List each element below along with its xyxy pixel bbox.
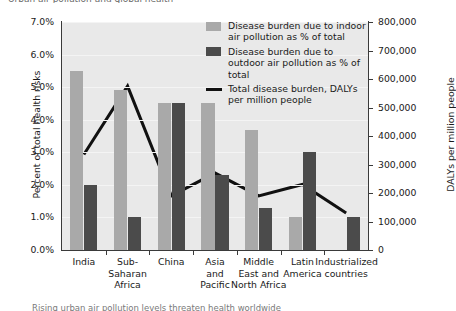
bar-outdoor xyxy=(215,175,228,250)
x-axis-label-line: Saharan xyxy=(97,268,159,280)
right-tick-label: 300,000 xyxy=(378,160,430,170)
x-axis-label-line: countries xyxy=(315,268,377,280)
bar-outdoor xyxy=(347,217,360,250)
legend-item-label: Disease burden due to indoor air polluti… xyxy=(228,20,366,42)
x-axis-separator xyxy=(324,250,325,255)
left-tick-label: 4.0% xyxy=(8,115,54,125)
bar-indoor xyxy=(158,103,171,250)
right-tick-label: 200,000 xyxy=(378,188,430,198)
right-tick-mark xyxy=(369,250,373,251)
legend-item-indoor-series: Disease burden due to indoor air polluti… xyxy=(206,20,372,43)
bar-indoor xyxy=(201,103,214,250)
clipped-caption-bottom: Rising urban air pollution levels threat… xyxy=(32,303,281,311)
x-axis-label-line: Industrialized xyxy=(315,256,377,268)
x-axis-label: Industrializedcountries xyxy=(315,256,377,279)
left-tick-label: 1.0% xyxy=(8,212,54,222)
chart-legend: Disease burden due to indoor air polluti… xyxy=(206,20,372,109)
x-axis-label-line: North Africa xyxy=(228,279,290,291)
legend-item-label: Total disease burden, DALYs per million … xyxy=(228,83,358,105)
right-tick-mark xyxy=(369,136,373,137)
x-axis-separator xyxy=(193,250,194,255)
gridline xyxy=(62,152,368,153)
x-axis-label-line: Africa xyxy=(97,279,159,291)
legend-item-label: Disease burden due to outdoor air pollut… xyxy=(228,46,360,80)
left-axis-ticks: 0.0%1.0%2.0%3.0%4.0%5.0%6.0%7.0% xyxy=(8,0,54,310)
bar-outdoor xyxy=(128,217,141,250)
right-tick-label: 800,000 xyxy=(378,17,430,27)
right-tick-label: 700,000 xyxy=(378,46,430,56)
right-tick-label: 100,000 xyxy=(378,217,430,227)
bar-outdoor xyxy=(259,208,272,250)
x-axis-separator xyxy=(106,250,107,255)
bar-indoor xyxy=(114,90,127,250)
left-tick-label: 3.0% xyxy=(8,147,54,157)
right-axis-ticks: 0100,000200,000300,000400,000500,000600,… xyxy=(378,0,432,310)
legend-swatch-icon xyxy=(206,47,221,56)
bottom-axis-line xyxy=(61,250,369,251)
x-axis-separator xyxy=(149,250,150,255)
x-axis-separator xyxy=(237,250,238,255)
legend-swatch-icon xyxy=(206,88,222,91)
bar-indoor xyxy=(70,71,83,250)
left-tick-label: 5.0% xyxy=(8,82,54,92)
right-tick-label: 400,000 xyxy=(378,131,430,141)
bar-indoor xyxy=(245,130,258,251)
left-tick-label: 7.0% xyxy=(8,17,54,27)
right-tick-mark xyxy=(369,193,373,194)
right-tick-label: 500,000 xyxy=(378,103,430,113)
bar-outdoor xyxy=(172,103,185,250)
legend-item-outdoor-series: Disease burden due to outdoor air pollut… xyxy=(206,46,372,80)
right-tick-label: 600,000 xyxy=(378,74,430,84)
right-tick-mark xyxy=(369,165,373,166)
left-tick-label: 2.0% xyxy=(8,180,54,190)
x-axis-separator xyxy=(281,250,282,255)
bar-outdoor xyxy=(303,152,316,250)
left-tick-label: 0.0% xyxy=(8,245,54,255)
legend-swatch-icon xyxy=(206,22,221,31)
bar-indoor xyxy=(289,217,302,250)
right-tick-mark xyxy=(369,222,373,223)
legend-item-dalys-series: Total disease burden, DALYs per million … xyxy=(206,83,372,106)
right-tick-label: 0 xyxy=(378,245,430,255)
bar-outdoor xyxy=(84,185,97,250)
right-axis-title: DALYs per million people xyxy=(445,35,456,235)
left-tick-label: 6.0% xyxy=(8,50,54,60)
gridline xyxy=(62,120,368,121)
